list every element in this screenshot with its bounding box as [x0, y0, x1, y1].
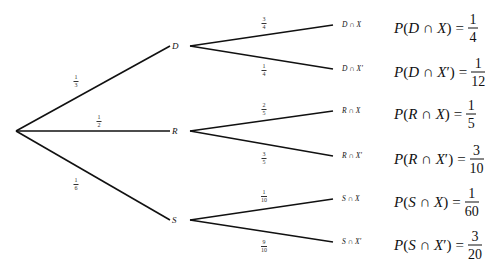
- result-fraction: 310: [470, 143, 484, 176]
- probability-result: P(R ∩ X′)=310: [394, 143, 484, 176]
- numerator: 1: [468, 186, 475, 201]
- numerator: 2: [263, 102, 266, 108]
- equals-sign: =: [452, 194, 460, 211]
- leaf-node: S ∩ X′: [342, 237, 361, 247]
- denominator: 10: [261, 247, 267, 253]
- branch-root-S: [16, 131, 170, 220]
- denominator: 4: [470, 30, 477, 45]
- denominator: 60: [465, 204, 479, 219]
- denominator: 12: [471, 74, 485, 89]
- numerator: 1: [75, 177, 78, 183]
- fraction-bar: [466, 114, 476, 115]
- denominator: 3: [75, 82, 78, 88]
- fraction-bar: [468, 28, 478, 29]
- denominator: 5: [263, 110, 266, 116]
- branch-prob-D: 13: [74, 74, 79, 88]
- numerator: 1: [98, 114, 101, 120]
- numerator: 9: [263, 239, 266, 245]
- equals-sign: =: [456, 20, 464, 37]
- probability-result: P(S ∩ X′)=320: [394, 229, 482, 262]
- node-R: R: [172, 126, 178, 136]
- result-lhs: P(S ∩ X): [394, 194, 448, 211]
- denominator: 20: [468, 247, 482, 262]
- result-fraction: 112: [471, 56, 485, 89]
- branch-prob: 910: [261, 239, 267, 253]
- denominator: 2: [98, 122, 101, 128]
- fraction-bar: [470, 159, 484, 160]
- leaf-node: D ∩ X′: [342, 64, 363, 74]
- numerator: 3: [263, 151, 266, 157]
- branch-prob: 25: [262, 102, 267, 116]
- numerator: 1: [263, 63, 266, 69]
- equals-sign: =: [455, 237, 463, 254]
- numerator: 1: [468, 98, 475, 113]
- result-lhs: P(D ∩ X′): [394, 64, 455, 81]
- numerator: 1: [475, 56, 482, 71]
- equals-sign: =: [454, 106, 462, 123]
- denominator: 10: [261, 197, 267, 203]
- probability-result: P(S ∩ X)=160: [394, 186, 479, 219]
- probability-result: P(R ∩ X)=15: [394, 98, 476, 131]
- branch-prob: 35: [262, 151, 267, 165]
- numerator: 1: [263, 189, 266, 195]
- branch-prob-S: 16: [74, 177, 79, 191]
- numerator: 3: [263, 16, 266, 22]
- branch-prob: 14: [262, 63, 267, 77]
- result-lhs: P(R ∩ X′): [394, 151, 453, 168]
- denominator: 5: [263, 159, 266, 165]
- leaf-node: D ∩ X: [342, 20, 361, 30]
- result-lhs: P(S ∩ X′): [394, 237, 451, 254]
- result-fraction: 320: [468, 229, 482, 262]
- denominator: 5: [468, 116, 475, 131]
- fraction-bar: [468, 245, 482, 246]
- result-lhs: P(D ∩ X): [394, 20, 452, 37]
- node-D: D: [172, 41, 179, 51]
- probability-result: P(D ∩ X)=14: [394, 12, 478, 45]
- leaf-node: R ∩ X: [342, 106, 360, 116]
- denominator: 6: [75, 185, 78, 191]
- numerator: 3: [473, 143, 480, 158]
- fraction-bar: [471, 72, 485, 73]
- probability-result: P(D ∩ X′)=112: [394, 56, 485, 89]
- branch-prob-R: 12: [97, 114, 102, 128]
- node-S: S: [172, 215, 177, 225]
- equals-sign: =: [457, 151, 465, 168]
- result-fraction: 160: [465, 186, 479, 219]
- branch-prob: 110: [261, 189, 267, 203]
- numerator: 3: [471, 229, 478, 244]
- numerator: 1: [470, 12, 477, 27]
- branch-root-D: [16, 46, 170, 131]
- result-lhs: P(R ∩ X): [394, 106, 450, 123]
- numerator: 1: [75, 74, 78, 80]
- denominator: 4: [263, 71, 266, 77]
- leaf-node: S ∩ X: [342, 194, 360, 204]
- denominator: 10: [470, 161, 484, 176]
- result-fraction: 15: [466, 98, 476, 131]
- equals-sign: =: [459, 64, 467, 81]
- result-fraction: 14: [468, 12, 478, 45]
- denominator: 4: [263, 24, 266, 30]
- branch-prob: 34: [262, 16, 267, 30]
- fraction-bar: [465, 202, 479, 203]
- leaf-node: R ∩ X′: [342, 151, 362, 161]
